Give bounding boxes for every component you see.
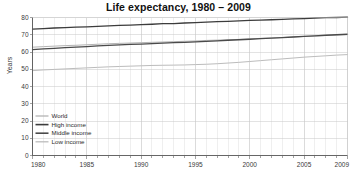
y-tick-label: 40 [21, 83, 29, 90]
y-tick-label: 50 [21, 65, 29, 72]
y-tick-label: 30 [21, 100, 29, 107]
legend-label-world: World [52, 112, 69, 119]
series-line-middle-income [33, 34, 348, 49]
x-tick-label: 2000 [243, 161, 258, 168]
x-tick-labels: 1980198519901995200020052009 [31, 161, 349, 168]
y-tick-label: 70 [21, 31, 29, 38]
legend-label-high-income: High income [52, 121, 87, 128]
series-line-high-income [33, 17, 348, 29]
y-tick-label: 60 [21, 48, 29, 55]
x-tick-label: 1995 [188, 161, 203, 168]
x-tick-label: 2009 [335, 161, 350, 168]
series-line-low-income [33, 55, 348, 71]
plot-area: 01020304050607080 1980198519901995200020… [0, 0, 357, 174]
x-tick-label: 1985 [80, 161, 95, 168]
x-tick-label: 1980 [31, 161, 46, 168]
y-tick-labels: 01020304050607080 [21, 14, 29, 159]
legend-label-middle-income: Middle income [52, 129, 92, 136]
legend-label-low-income: Low income [52, 138, 86, 145]
y-tick-label: 0 [25, 152, 29, 159]
x-tick-label: 1990 [134, 161, 149, 168]
y-tick-label: 10 [21, 134, 29, 141]
chart-legend: WorldHigh incomeMiddle incomeLow income [36, 112, 92, 145]
series-lines [33, 17, 348, 70]
y-tick-label: 80 [21, 14, 29, 21]
x-tick-label: 2005 [297, 161, 312, 168]
y-tick-label: 20 [21, 117, 29, 124]
life-expectancy-chart: Life expectancy, 1980 – 2009 Years 01020… [0, 0, 357, 174]
